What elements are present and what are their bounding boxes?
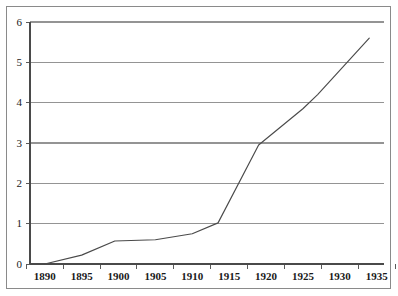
x-tick-label-1905: 1905 xyxy=(144,270,167,282)
y-tick-label-4: 4 xyxy=(17,96,23,108)
tick-marks xyxy=(26,22,395,269)
x-axis-tick-labels: 1890189519001905191019151920192519301935 xyxy=(34,270,388,282)
plot-area: 0123456 18901895190019051910191519201925… xyxy=(0,0,398,296)
line-chart: 0123456 18901895190019051910191519201925… xyxy=(0,0,398,296)
x-tick-label-1910: 1910 xyxy=(181,270,204,282)
x-tick-label-1930: 1930 xyxy=(329,270,352,282)
x-tick-label-1895: 1895 xyxy=(71,270,94,282)
series-line-1 xyxy=(45,38,370,264)
y-tick-label-6: 6 xyxy=(17,16,23,28)
y-tick-label-5: 5 xyxy=(17,56,23,68)
x-tick-label-1900: 1900 xyxy=(108,270,131,282)
y-axis-tick-labels: 0123456 xyxy=(17,16,23,270)
x-tick-label-1890: 1890 xyxy=(34,270,57,282)
x-tick-label-1915: 1915 xyxy=(218,270,241,282)
y-tick-label-2: 2 xyxy=(17,177,23,189)
x-tick-label-1935: 1935 xyxy=(366,270,389,282)
chart-page: 0123456 18901895190019051910191519201925… xyxy=(0,0,398,296)
x-tick-label-1920: 1920 xyxy=(255,270,278,282)
y-tick-label-3: 3 xyxy=(17,137,23,149)
x-tick-label-1925: 1925 xyxy=(292,270,315,282)
data-series xyxy=(45,38,370,264)
y-tick-label-0: 0 xyxy=(17,258,23,270)
gridlines xyxy=(30,22,384,224)
y-tick-label-1: 1 xyxy=(17,217,23,229)
